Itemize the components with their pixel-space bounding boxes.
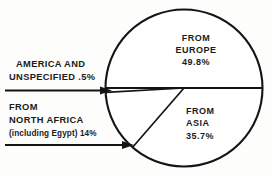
asia-value: 35.7%: [186, 131, 214, 141]
asia-label-line2: ASIA: [186, 118, 210, 128]
pie-chart-svg: FROM EUROPE 49.8% FROM ASIA 35.7% AMERIC…: [0, 0, 273, 176]
asia-label-line1: FROM: [186, 106, 215, 116]
america-label-line1: AMERICA AND: [16, 59, 85, 69]
america-label-line2: UNSPECIFIED .5%: [9, 72, 96, 82]
europe-label-line2: EUROPE: [175, 45, 216, 55]
europe-value: 49.8%: [182, 57, 210, 67]
label-america-and-unspecified: AMERICA AND UNSPECIFIED .5%: [9, 59, 96, 82]
africa-label-line1: FROM: [9, 102, 38, 112]
africa-value: (including Egypt) 14%: [9, 129, 97, 138]
label-from-north-africa: FROM NORTH AFRICA (including Egypt) 14%: [9, 102, 97, 138]
africa-label-line2: NORTH AFRICA: [9, 115, 84, 125]
pie-chart-figure: FROM EUROPE 49.8% FROM ASIA 35.7% AMERIC…: [0, 0, 273, 176]
europe-label-line1: FROM: [182, 33, 211, 43]
